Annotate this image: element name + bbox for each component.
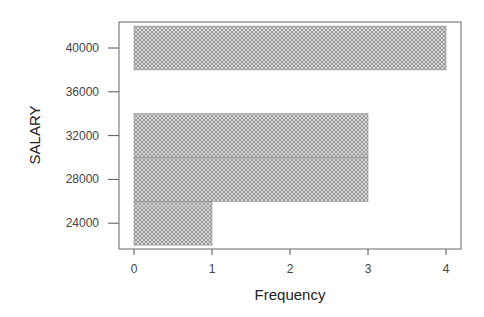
- y-tick-label: 36000: [66, 85, 100, 99]
- bars-group: [134, 26, 446, 245]
- x-tick-label: 3: [365, 262, 372, 276]
- x-tick-label: 1: [209, 262, 216, 276]
- x-tick-label: 2: [287, 262, 294, 276]
- histogram-bar: [134, 114, 368, 158]
- histogram-bar: [134, 26, 446, 70]
- x-tick-label: 4: [443, 262, 450, 276]
- y-axis: 2400028000320003600040000: [66, 41, 119, 230]
- y-axis-title: SALARY: [26, 106, 43, 165]
- x-tick-label: 0: [131, 262, 138, 276]
- y-tick-label: 28000: [66, 172, 100, 186]
- y-tick-label: 32000: [66, 129, 100, 143]
- y-tick-label: 40000: [66, 41, 100, 55]
- x-axis: 01234: [131, 249, 450, 276]
- histogram-chart: 2400028000320003600040000 01234 Frequenc…: [0, 0, 484, 317]
- histogram-bar: [134, 201, 212, 245]
- histogram-bar: [134, 158, 368, 202]
- y-tick-label: 24000: [66, 216, 100, 230]
- x-axis-title: Frequency: [255, 286, 326, 303]
